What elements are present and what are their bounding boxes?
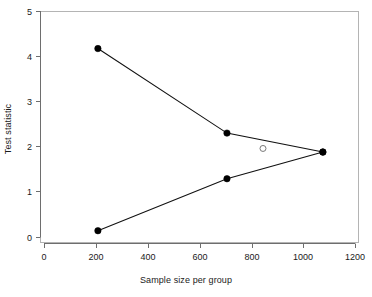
x-tick-label: 800 [244,252,259,262]
data-point [95,228,101,234]
x-tick-labels: 0 200 400 600 800 1000 1200 [41,252,365,262]
y-tick-labels: 5 4 3 2 1 0 [27,7,32,243]
y-tick-label: 3 [27,97,32,107]
data-point [95,45,101,51]
y-tick-label: 4 [27,52,32,62]
x-axis: 0 200 400 600 800 1000 1200 [41,244,365,263]
data-point [224,130,230,136]
y-axis: 5 4 3 2 1 0 [27,7,41,243]
y-tick-label: 5 [27,7,32,17]
y-axis-ticks [36,12,41,238]
data-point [320,149,326,155]
series-observed-point [260,145,266,151]
y-tick-label: 2 [27,142,32,152]
x-tick-label: 1000 [293,252,313,262]
data-point-open [260,145,266,151]
x-tick-label: 600 [192,252,207,262]
x-axis-ticks [45,244,356,249]
x-axis-title: Sample size per group [0,275,372,285]
chart-plot-area: 5 4 3 2 1 0 0 200 400 [0,0,372,297]
y-tick-label: 1 [27,187,32,197]
data-point [224,176,230,182]
x-tick-label: 1200 [345,252,365,262]
x-tick-label: 0 [41,252,46,262]
plot-box [41,12,359,243]
chart-figure: 5 4 3 2 1 0 0 200 400 [0,0,372,297]
y-axis-title: Test statistic [3,69,13,189]
x-tick-label: 400 [140,252,155,262]
x-tick-label: 200 [88,252,103,262]
y-tick-label: 0 [27,233,32,243]
